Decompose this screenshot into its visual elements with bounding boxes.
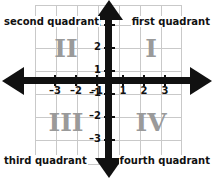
y-tick-label-neg1: –1 xyxy=(86,88,101,98)
y-tick-neg2 xyxy=(104,116,115,118)
x-tick-label-pos2: 2 xyxy=(141,86,148,96)
quadrant-caption-first: first quadrant xyxy=(131,16,211,27)
y-tick-neg1 xyxy=(104,93,115,95)
quadrant-caption-fourth: fourth quadrant xyxy=(119,155,211,166)
coordinate-plane-figure: –3 –2 –1 1 2 3 3 2 1 –1 –2 –3 II I III I… xyxy=(0,0,214,178)
quadrant-numeral-i: I xyxy=(145,36,157,61)
quadrant-caption-second: second quadrant xyxy=(3,16,100,27)
x-tick-label-neg2: –2 xyxy=(70,86,82,96)
x-axis-right-arrow-icon xyxy=(190,67,212,95)
quadrant-caption-third: third quadrant xyxy=(3,155,88,166)
x-tick-label-pos1: 1 xyxy=(120,86,127,96)
x-tick-label-pos3: 3 xyxy=(162,86,169,96)
y-tick-pos3 xyxy=(104,24,115,26)
quadrant-numeral-ii: II xyxy=(54,36,77,61)
y-tick-neg3 xyxy=(104,139,115,141)
quadrant-numeral-iii: III xyxy=(48,110,83,135)
y-tick-label-neg3: –3 xyxy=(86,134,101,144)
y-tick-pos1 xyxy=(104,70,115,72)
x-tick-label-neg3: –3 xyxy=(49,86,61,96)
quadrant-numeral-iv: IV xyxy=(135,110,166,135)
y-tick-label-pos2: 2 xyxy=(88,42,101,52)
x-axis-left-arrow-icon xyxy=(2,67,24,95)
y-tick-label-neg2: –2 xyxy=(86,111,101,121)
y-tick-pos2 xyxy=(104,47,115,49)
y-tick-label-pos1: 1 xyxy=(88,65,101,75)
